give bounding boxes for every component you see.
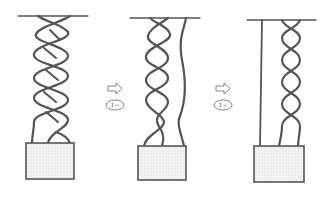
hollow-right-arrow-icon bbox=[108, 83, 122, 94]
hollow-right-arrow-icon bbox=[216, 83, 230, 94]
weight-box bbox=[254, 146, 304, 182]
weight-box bbox=[26, 143, 74, 179]
strand-b bbox=[32, 16, 70, 143]
panel-1-three-strand-braid bbox=[18, 16, 88, 179]
panel-3-straight-plus-twist bbox=[247, 20, 316, 182]
strand-c-separated bbox=[179, 18, 186, 146]
panel-2-separated-strand bbox=[130, 18, 200, 180]
twist-strand-b bbox=[279, 20, 300, 146]
transition-1: 1− bbox=[106, 83, 124, 110]
strand-a bbox=[34, 16, 68, 143]
step-label: 1− bbox=[111, 101, 120, 108]
straight-strand bbox=[260, 20, 262, 146]
strand-c-end bbox=[56, 132, 70, 143]
twist-strand-a bbox=[282, 20, 300, 146]
weight-box bbox=[138, 146, 186, 180]
step-label: 1− bbox=[219, 101, 228, 108]
braid-diagram: 1− 1− bbox=[0, 0, 331, 203]
transition-2: 1− bbox=[214, 83, 232, 110]
strand-b bbox=[146, 18, 168, 146]
